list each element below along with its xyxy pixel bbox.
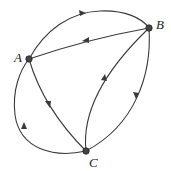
node-a <box>26 56 32 62</box>
arrow-c-to-a-icon <box>21 122 27 129</box>
arrow-a-to-c-icon <box>45 101 51 108</box>
edge-a-to-c <box>29 59 86 151</box>
node-b-label: B <box>156 17 164 32</box>
node-c-label: C <box>89 155 98 170</box>
edge-c-to-b <box>85 28 149 151</box>
edge-a-to-b <box>29 11 149 59</box>
graph-diagram: A B C <box>0 0 171 171</box>
node-c <box>83 148 89 154</box>
arrow-a-to-b-icon <box>79 10 86 16</box>
arrow-c-to-b-icon <box>101 74 107 81</box>
node-a-label: A <box>13 50 22 65</box>
node-b <box>146 25 152 31</box>
edge-b-to-a <box>29 28 149 59</box>
edge-b-to-c <box>86 28 149 151</box>
